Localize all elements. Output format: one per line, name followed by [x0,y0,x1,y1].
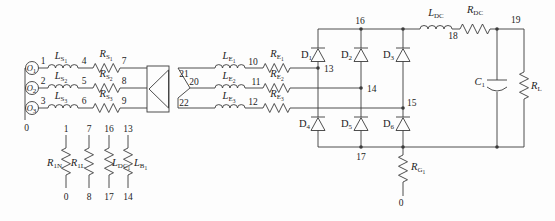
node-label-bottom: 0 [64,192,69,202]
label-sub: 1N [53,162,62,170]
node-label-bottom: 14 [123,192,133,202]
label-LS2: LS2 [54,70,68,84]
node-label-9: 9 [122,96,127,106]
node-label-bottom: 17 [104,192,114,202]
transformer-delta-triangle-icon [149,70,169,108]
ground-resistor-RG1: RG1 0 [399,147,426,208]
label-RE3: RE3 [269,88,284,102]
label-sub: 1 [482,81,486,89]
resistor-RS2 [93,84,120,93]
label-LDC1: LDC1 [111,157,131,171]
label-sub: L [537,85,541,93]
source-label-O2: O2 [27,83,37,95]
label-subsub: 1 [110,56,113,62]
node-label-21: 21 [179,69,189,79]
node-label-top: 13 [123,124,133,134]
label-D1: D1 [301,49,313,62]
resistor-RS3 [93,104,120,113]
junction-dot-node14 [359,86,363,90]
label-RS1: RS1 [98,48,112,62]
source-block: 0 O1 1 LS1 4 RS1 7 O2 2 LS2 5 RS2 8 O3 3… [24,48,147,133]
inductor-LS1 [48,65,78,68]
label-RE2: RE2 [269,68,284,82]
inductor-LDC [420,26,452,29]
label-LS1: LS1 [54,50,68,64]
label-D2: D2 [341,49,353,62]
junction-dot [401,27,405,31]
node-label-top: 7 [87,124,92,134]
node-label-7: 7 [122,56,127,66]
label-subsub: 2 [65,78,68,84]
label-R1L: R1L [70,157,85,170]
label-sub: 2 [349,54,353,62]
label-C1: C1 [474,76,485,89]
label-LS3: LS3 [54,90,68,104]
label-RG1: RG1 [410,161,425,175]
label-D3: D3 [383,49,395,62]
label-subsub: 1 [233,58,236,64]
diode-D3 [396,48,410,62]
junction-dot [359,145,363,149]
label-sub: 5 [349,123,353,131]
label-LDC: LDC [427,7,444,20]
node-label-bottom: 8 [87,192,92,202]
load-resistor-RL: RL [520,29,542,147]
node-label-16: 16 [355,16,365,26]
label-subsub: 2 [233,78,236,84]
label-subsub: 1 [65,58,68,64]
resistor-R1N [62,148,71,175]
node-label-14: 14 [367,84,377,94]
diode-triangle-icon [396,49,410,62]
inductor-LE3 [215,105,245,108]
resistor-RDC [460,24,490,34]
junction-dot [359,27,363,31]
node-label-5: 5 [82,76,87,86]
resistor-RG1 [399,155,408,182]
node-label-6: 6 [82,96,87,106]
label-R1N: R1N [46,157,62,170]
label-sub: 2 [33,87,37,95]
transformer: 21 20 22 [147,66,215,112]
node-label-13: 13 [324,64,334,74]
resistor-RE3 [263,104,290,113]
label-subsub: 3 [65,98,68,104]
node-label-top: 1 [64,124,69,134]
label-subsub: 2 [281,76,284,82]
diode-D1 [311,48,325,62]
label-sub: 1 [33,67,37,75]
label-RS2: RS2 [98,68,112,82]
resistor-RL [520,72,529,99]
diode-D5 [354,117,368,131]
node-label-3: 3 [41,96,46,106]
label-sub: DC [473,9,483,17]
diode-triangle-icon [354,118,368,131]
node-label-17: 17 [356,152,366,162]
label-sub: 3 [33,107,37,115]
node-label-11: 11 [251,77,260,87]
node-label-8: 8 [122,76,127,86]
inductor-LS2 [48,85,78,88]
label-LE3: LE3 [222,90,236,104]
diode-triangle-icon [354,49,368,62]
node-label-ground-rg: 0 [399,198,404,208]
label-subsub: 3 [110,96,113,102]
label-subsub: 2 [110,76,113,82]
source-label-O3: O3 [27,103,37,115]
resistor-RS1 [93,64,120,73]
node-label-1: 1 [41,56,46,66]
capacitor-curved-plate [487,87,507,91]
node-label-12: 12 [248,97,258,107]
diode-D4 [311,117,325,131]
label-RE1: RE1 [269,48,284,62]
label-D6: D6 [383,118,395,131]
node-label-20: 20 [189,77,199,87]
label-sub: 4 [307,123,311,131]
label-subsub: 3 [233,98,236,104]
schematic-svg: 0 O1 1 LS1 4 RS1 7 O2 2 LS2 5 RS2 8 O3 3… [0,0,555,221]
node-label-18: 18 [448,31,458,41]
diode-D2 [354,48,368,62]
resistor-R1L [85,148,94,175]
label-sub: 1 [309,54,313,62]
inductor-LE1 [215,65,245,68]
label-sub: DC [118,162,128,170]
